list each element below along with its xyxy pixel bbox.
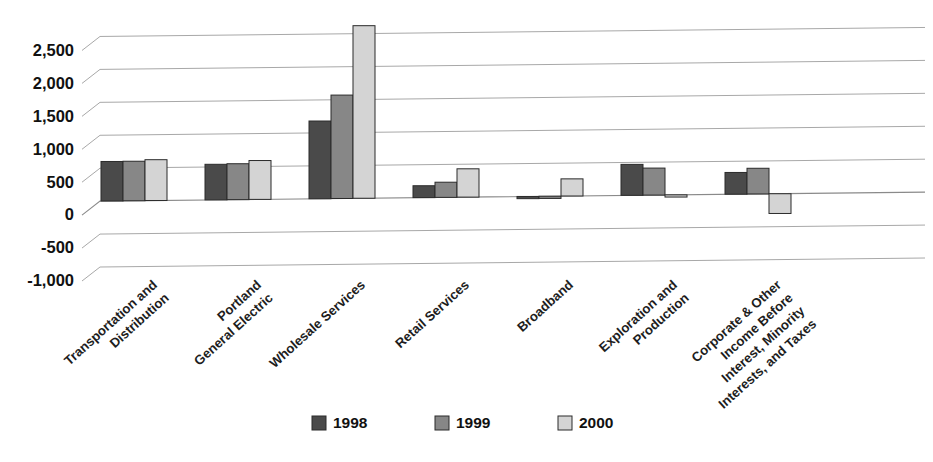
bar [665,195,687,197]
bar [435,182,457,197]
chart-canvas: -1,000-50005001,0001,5002,0002,500 Trans… [0,0,933,462]
bar [725,172,747,194]
bar [101,161,123,201]
y-axis-tick-label: 0 [65,205,74,223]
bar [769,194,791,214]
bar [205,164,227,200]
bar [309,121,331,199]
bar [413,186,435,198]
bar [517,196,539,198]
y-axis-tick-label: 1,000 [33,140,74,158]
bar [145,160,167,201]
y-axis-tick-label: 1,500 [33,107,74,125]
bar [123,161,145,201]
legend-label[interactable]: 1998 [333,414,368,431]
bar-chart: -1,000-50005001,0001,5002,0002,500 Trans… [0,0,933,462]
chart-legend: 199819992000 [312,414,613,431]
legend-label[interactable]: 2000 [579,414,613,431]
bar [747,168,769,194]
bar [353,26,375,199]
y-axis-tick-label: 2,500 [33,41,74,59]
y-axis-tick-label: 2,000 [33,74,74,92]
y-axis-tick-label: -1,000 [27,271,74,289]
bar [539,196,561,198]
bar [621,164,643,195]
y-axis-tick-label: 500 [46,173,74,191]
legend-swatch[interactable] [435,416,449,430]
y-axis-tick-label: -500 [41,238,74,256]
bar [457,169,479,197]
bar [643,168,665,195]
legend-swatch[interactable] [312,416,326,430]
legend-label[interactable]: 1999 [456,414,491,431]
legend-swatch[interactable] [558,416,572,430]
bar [561,179,583,196]
bar [227,164,249,200]
bar [331,95,353,198]
bar [249,161,271,200]
